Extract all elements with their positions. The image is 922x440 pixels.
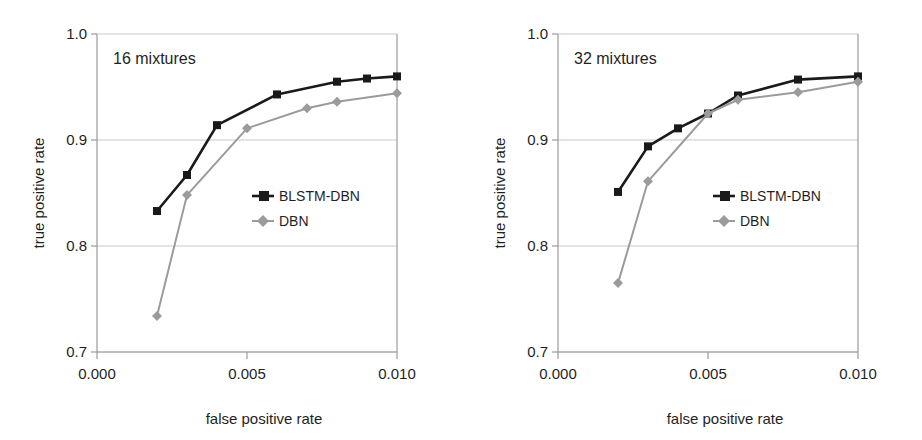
data-point-marker — [674, 124, 682, 132]
data-point-marker — [183, 171, 191, 179]
data-point-marker — [153, 207, 161, 215]
legend-label: DBN — [740, 213, 770, 229]
diamond-marker-icon — [718, 215, 730, 227]
panel-title-right: 32 mixtures — [574, 50, 657, 67]
series-group-left — [152, 72, 402, 321]
legend-right: BLSTM-DBNDBN — [713, 188, 821, 229]
data-point-marker — [644, 142, 652, 150]
chart-svg-right: 0.70.80.91.00.0000.0050.010 32 mixtures … — [461, 0, 922, 440]
y-tick-label: 0.8 — [527, 237, 548, 254]
y-tick-label: 0.8 — [66, 237, 87, 254]
legend-left: BLSTM-DBNDBN — [252, 188, 360, 229]
data-point-marker — [614, 188, 622, 196]
data-point-marker — [273, 90, 281, 98]
chart-panel-16-mixtures: 0.70.80.91.00.0000.0050.010 16 mixtures … — [0, 0, 461, 440]
x-tick-label: 0.000 — [539, 365, 577, 382]
legend-label: BLSTM-DBN — [279, 188, 360, 204]
square-marker-icon — [259, 191, 269, 201]
x-axis-title-left: false positive rate — [206, 410, 323, 427]
y-axis-title-right: true positive rate — [491, 138, 508, 249]
y-tick-label: 0.7 — [527, 343, 548, 360]
y-tick-label: 1.0 — [527, 25, 548, 42]
legend-label: DBN — [279, 213, 309, 229]
series-group-right — [613, 72, 863, 288]
panel-title-left: 16 mixtures — [113, 50, 196, 67]
data-point-marker — [302, 103, 312, 113]
y-tick-label: 0.9 — [66, 131, 87, 148]
x-tick-label: 0.000 — [78, 365, 116, 382]
series-line-dbn — [618, 82, 858, 283]
data-point-marker — [213, 121, 221, 129]
data-point-marker — [332, 97, 342, 107]
data-point-marker — [363, 75, 371, 83]
x-tick-label: 0.010 — [378, 365, 416, 382]
y-tick-label: 0.9 — [527, 131, 548, 148]
chart-panel-32-mixtures: 0.70.80.91.00.0000.0050.010 32 mixtures … — [461, 0, 922, 440]
roc-figure: 0.70.80.91.00.0000.0050.010 16 mixtures … — [0, 0, 922, 440]
legend-label: BLSTM-DBN — [740, 188, 821, 204]
data-point-marker — [794, 76, 802, 84]
y-axis-title-left: true positive rate — [30, 138, 47, 249]
y-tick-label: 0.7 — [66, 343, 87, 360]
chart-svg-left: 0.70.80.91.00.0000.0050.010 16 mixtures … — [0, 0, 461, 440]
data-point-marker — [152, 311, 162, 321]
data-point-marker — [393, 72, 401, 80]
x-tick-label: 0.005 — [228, 365, 266, 382]
x-tick-label: 0.005 — [689, 365, 727, 382]
diamond-marker-icon — [257, 215, 269, 227]
x-tick-label: 0.010 — [839, 365, 877, 382]
x-axis-title-right: false positive rate — [667, 410, 784, 427]
square-marker-icon — [720, 191, 730, 201]
data-point-marker — [392, 88, 402, 98]
y-tick-label: 1.0 — [66, 25, 87, 42]
data-point-marker — [793, 87, 803, 97]
data-point-marker — [613, 278, 623, 288]
series-line-dbn — [157, 93, 397, 316]
data-point-marker — [333, 78, 341, 86]
